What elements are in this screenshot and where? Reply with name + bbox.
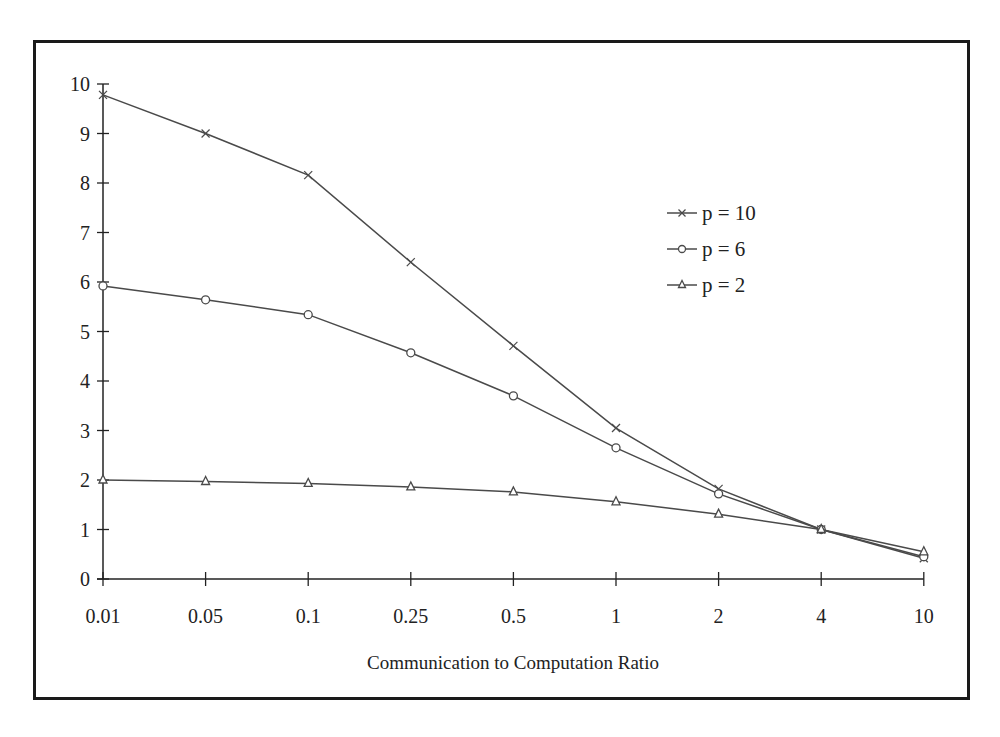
series-p2 [99, 475, 928, 555]
circle-marker-icon [679, 246, 686, 253]
y-tick-label: 10 [70, 73, 90, 95]
y-tick-label: 8 [80, 172, 90, 194]
y-tick-label: 0 [80, 568, 90, 590]
line-chart: 012345678910 0.010.050.10.250.512410 p =… [0, 0, 1000, 737]
legend-item: p = 2 [667, 273, 745, 297]
data-series [99, 91, 928, 562]
circle-marker-icon [99, 282, 107, 290]
x-axis-title: Communication to Computation Ratio [367, 652, 659, 673]
y-tick-label: 7 [80, 222, 90, 244]
legend-label: p = 6 [702, 237, 745, 261]
triangle-marker-icon [407, 482, 415, 490]
x-marker-icon [407, 258, 415, 266]
circle-marker-icon [612, 444, 620, 452]
x-tick-label: 2 [714, 605, 724, 627]
series-line [103, 286, 924, 557]
axes [97, 84, 924, 579]
x-tick-label: 1 [611, 605, 621, 627]
x-marker-icon [612, 424, 620, 432]
x-tick-label: 0.01 [86, 605, 121, 627]
triangle-marker-icon [304, 478, 312, 486]
legend-item: p = 10 [667, 201, 756, 225]
triangle-marker-icon [99, 475, 107, 483]
x-tick-label: 0.5 [501, 605, 526, 627]
circle-marker-icon [715, 490, 723, 498]
circle-marker-icon [202, 296, 210, 304]
series-p6 [99, 282, 928, 561]
x-axis-ticks: 0.010.050.10.250.512410 [86, 572, 934, 627]
x-tick-label: 10 [914, 605, 934, 627]
y-tick-label: 4 [80, 370, 90, 392]
triangle-marker-icon [509, 487, 517, 495]
y-tick-label: 3 [80, 420, 90, 442]
legend-label: p = 10 [702, 201, 756, 225]
y-tick-label: 5 [80, 321, 90, 343]
triangle-marker-icon [202, 476, 210, 484]
x-marker-icon [304, 171, 312, 179]
triangle-marker-icon [679, 281, 686, 288]
x-marker-icon [202, 130, 210, 138]
x-tick-label: 0.05 [188, 605, 223, 627]
y-tick-label: 1 [80, 519, 90, 541]
legend-label: p = 2 [702, 273, 745, 297]
circle-marker-icon [509, 392, 517, 400]
legend-item: p = 6 [667, 237, 745, 261]
y-tick-label: 6 [80, 271, 90, 293]
circle-marker-icon [304, 311, 312, 319]
circle-marker-icon [407, 349, 415, 357]
x-tick-label: 0.25 [393, 605, 428, 627]
legend: p = 10p = 6p = 2 [667, 201, 756, 297]
y-tick-label: 9 [80, 123, 90, 145]
x-tick-label: 0.1 [296, 605, 321, 627]
x-tick-label: 4 [816, 605, 826, 627]
x-marker-icon [509, 342, 517, 350]
y-tick-label: 2 [80, 469, 90, 491]
